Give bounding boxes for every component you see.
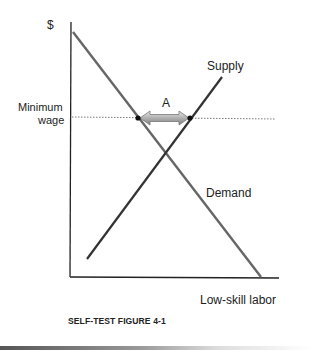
supply-label: Supply [207, 59, 244, 73]
minimum-wage-label-line1: Minimum [18, 101, 63, 113]
figure-caption: SELF-TEST FIGURE 4-1 [68, 315, 166, 326]
double-arrow-icon [140, 111, 189, 125]
y-axis-label: $ [47, 18, 54, 32]
demand-intersection-point [135, 115, 140, 120]
bottom-divider [0, 346, 312, 350]
x-axis-label: Low-skill labor [200, 293, 276, 307]
arrow-a-label: A [162, 96, 170, 110]
supply-curve [87, 77, 222, 259]
minimum-wage-label-line2: wage [38, 114, 64, 126]
x-axis [70, 277, 279, 278]
demand-label: Demand [206, 186, 251, 200]
y-axis [70, 22, 71, 277]
supply-intersection-point [187, 115, 192, 120]
